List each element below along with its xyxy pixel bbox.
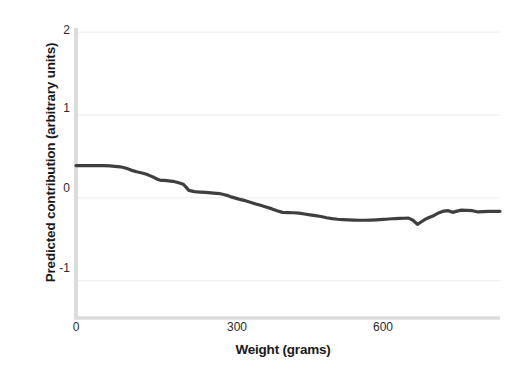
plot-area <box>0 0 514 385</box>
gridlines <box>76 32 500 281</box>
chart-container: Predicted contribution (arbitrary units)… <box>0 0 514 385</box>
data-line-series <box>76 166 500 225</box>
